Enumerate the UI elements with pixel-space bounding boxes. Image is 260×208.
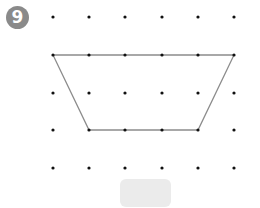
grid-dot [51,15,54,18]
grid-dot [160,128,163,131]
grid-dot [196,166,199,169]
grid-dot [196,128,199,131]
grid-dot [87,128,90,131]
grid-dot [51,166,54,169]
grid-dot [196,53,199,56]
grid-dot [123,15,126,18]
grid-dot [87,53,90,56]
grid-dot [232,53,235,56]
grid-dot [160,166,163,169]
grid-dot [232,91,235,94]
grid-dot [160,53,163,56]
grid-dot [232,128,235,131]
answer-box[interactable] [120,179,171,207]
trapezoid-shape [53,55,234,130]
grid-dot [51,53,54,56]
grid-dot [232,166,235,169]
grid-dot [160,15,163,18]
grid-dot [232,15,235,18]
grid-dot [123,128,126,131]
grid-dot [160,91,163,94]
grid-dot [87,166,90,169]
grid-dot [196,91,199,94]
grid-dot [196,15,199,18]
grid-dot [123,166,126,169]
grid-dot [123,91,126,94]
dot-grid-board [0,0,260,208]
grid-dot [51,128,54,131]
grid-dot [123,53,126,56]
grid-dot [87,91,90,94]
grid-dot [51,91,54,94]
grid-dot [87,15,90,18]
